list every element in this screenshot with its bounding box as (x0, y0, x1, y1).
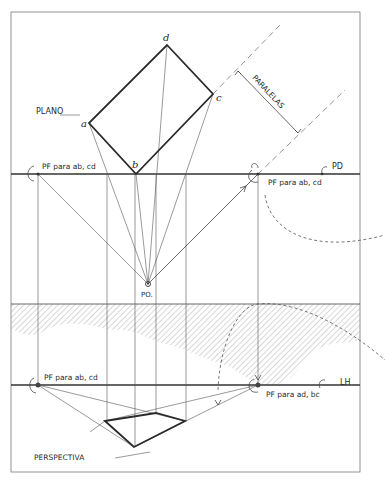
vertex-b: b (132, 159, 138, 170)
drawing-frame (11, 12, 360, 472)
paralelas-label: PARALELAS (251, 73, 287, 110)
pf-right-bottom-label: PF para ad, bc (266, 390, 320, 399)
parallel-line-c (213, 25, 280, 94)
pf-left-bottom-point (36, 383, 41, 388)
curl-arrow-icon (322, 167, 327, 173)
ground-sketch (115, 452, 150, 458)
plano-label: PLANO (36, 107, 63, 116)
lh-label: LH (340, 378, 350, 387)
arrow-icon (295, 129, 301, 133)
arrow-icon (235, 71, 241, 75)
perspective-construction-drawing: PLANO PERSPECTIVA PARALELAS PD LH PO. PF… (0, 0, 385, 481)
rotation-arc-top (265, 195, 385, 242)
pf-left-bottom-label: PF para ab, cd (44, 373, 98, 382)
perspective-rays (38, 385, 258, 447)
pd-label: PD (332, 162, 343, 171)
curl-arrow-icon (252, 164, 258, 169)
curl-arrow-icon (319, 380, 325, 388)
paralelas-dimension (238, 71, 298, 133)
vertex-a: a (81, 118, 87, 129)
pf-right-bottom-point (256, 383, 261, 388)
vertex-c: c (216, 92, 222, 103)
plan-square (89, 45, 213, 174)
vertex-d: d (163, 32, 169, 43)
perspectiva-label: PERSPECTIVA (34, 453, 85, 462)
po-label: PO. (141, 291, 153, 299)
pf-right-top-point (257, 173, 260, 176)
pf-left-top-label: PF para ab, cd (42, 162, 96, 171)
curl-arrow-icon (249, 170, 258, 182)
po-dot (147, 283, 149, 285)
pd-point (321, 173, 324, 176)
pf-right-top-label: PF para ab, cd (268, 178, 322, 187)
pf-left-top-point (37, 173, 40, 176)
